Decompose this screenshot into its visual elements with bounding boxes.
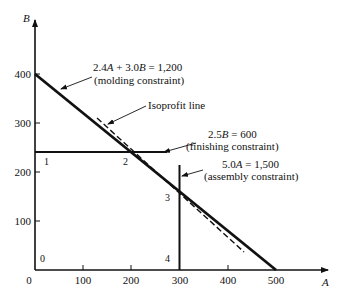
assembly-annotation: 5.0A = 1,500 (assembly constraint) bbox=[204, 158, 299, 183]
y-ticks: 100 200 300 400 bbox=[15, 68, 41, 227]
x-ticks: 0 100 200 300 400 500 bbox=[26, 265, 285, 286]
finishing-annotation: 2.5B = 600 (finishing constraint) bbox=[186, 128, 279, 153]
molding-equation: 2.4A + 3.0B = 1,200 bbox=[93, 61, 183, 73]
corner-point-2: 2 bbox=[123, 156, 128, 167]
isoprofit-annotation: Isoprofit line bbox=[148, 99, 205, 111]
x-tick-label: 200 bbox=[123, 274, 140, 286]
corner-point-labels: 0 1 2 3 4 bbox=[40, 156, 170, 264]
axes: B A bbox=[23, 12, 329, 288]
assembly-description: (assembly constraint) bbox=[204, 170, 299, 183]
corner-point-1: 1 bbox=[44, 156, 49, 167]
corner-point-0: 0 bbox=[40, 253, 45, 264]
finishing-description: (finishing constraint) bbox=[186, 140, 279, 153]
lp-feasible-region-chart: B A 100 200 300 400 0 100 200 300 400 50… bbox=[0, 0, 343, 297]
assembly-leader-arrow bbox=[182, 170, 203, 176]
molding-leader-arrow bbox=[61, 77, 92, 89]
assembly-equation: 5.0A = 1,500 bbox=[222, 158, 279, 170]
x-tick-label: 500 bbox=[268, 274, 285, 286]
y-axis-title: B bbox=[23, 12, 30, 24]
x-tick-label: 400 bbox=[220, 274, 237, 286]
corner-point-3: 3 bbox=[165, 192, 170, 203]
corner-point-4: 4 bbox=[165, 253, 170, 264]
y-tick-label: 100 bbox=[15, 215, 32, 227]
isoprofit-label: Isoprofit line bbox=[148, 99, 205, 111]
molding-annotation: 2.4A + 3.0B = 1,200 (molding constraint) bbox=[93, 61, 184, 87]
isoprofit-leader-arrow bbox=[108, 106, 146, 124]
y-tick-label: 400 bbox=[15, 68, 32, 80]
x-tick-label: 300 bbox=[172, 274, 189, 286]
molding-description: (molding constraint) bbox=[94, 74, 184, 87]
x-tick-label: 0 bbox=[26, 274, 32, 286]
y-tick-label: 300 bbox=[15, 117, 32, 129]
x-axis-title: A bbox=[321, 276, 329, 288]
x-tick-label: 100 bbox=[75, 274, 92, 286]
finishing-equation: 2.5B = 600 bbox=[208, 128, 257, 140]
y-tick-label: 200 bbox=[15, 166, 32, 178]
